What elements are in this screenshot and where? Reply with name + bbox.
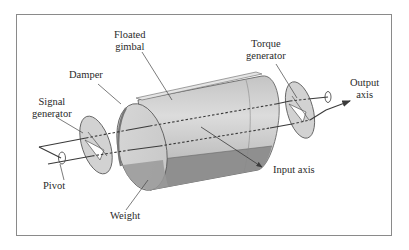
gyroscope-diagram bbox=[0, 0, 409, 250]
label-damper: Damper bbox=[69, 69, 103, 81]
label-input-axis: Input axis bbox=[273, 164, 315, 176]
signal-generator-disc bbox=[73, 112, 118, 178]
floated-gimbal-cylinder bbox=[109, 72, 279, 195]
label-output-axis: Output axis bbox=[350, 77, 379, 101]
label-pivot: Pivot bbox=[43, 180, 65, 192]
torque-generator-disc bbox=[280, 79, 320, 142]
pivot-ring-left bbox=[59, 152, 66, 164]
label-signal-generator: Signal generator bbox=[32, 96, 72, 120]
label-floated-gimbal: Floated gimbal bbox=[114, 29, 146, 53]
label-torque-generator: Torque generator bbox=[246, 38, 286, 62]
label-weight: Weight bbox=[110, 210, 140, 222]
